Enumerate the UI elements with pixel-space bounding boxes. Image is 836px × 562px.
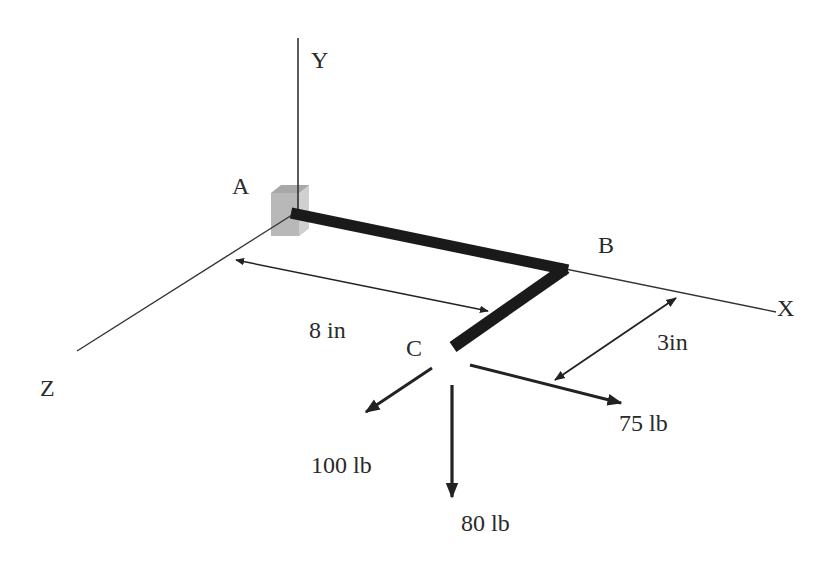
force-80lb-label: 80 lb (461, 511, 510, 535)
z-axis (77, 215, 292, 351)
x-axis-label: X (777, 296, 794, 320)
force-100lb-arrow (366, 368, 432, 412)
point-b-label: B (598, 233, 614, 257)
dimension-ab-label: 8 in (309, 318, 346, 342)
dimension-8in-arrow (236, 260, 488, 311)
point-c-label: C (406, 336, 422, 360)
y-axis-label: Y (311, 48, 328, 72)
dimension-bc-label: 3in (657, 330, 688, 354)
point-a-label: A (232, 174, 249, 198)
bar-ab (291, 213, 568, 270)
force-100lb-label: 100 lb (311, 453, 372, 477)
diagram-canvas (0, 0, 836, 562)
force-75lb-label: 75 lb (619, 411, 668, 435)
z-axis-label: Z (40, 376, 55, 400)
force-75lb-arrow (470, 365, 621, 403)
